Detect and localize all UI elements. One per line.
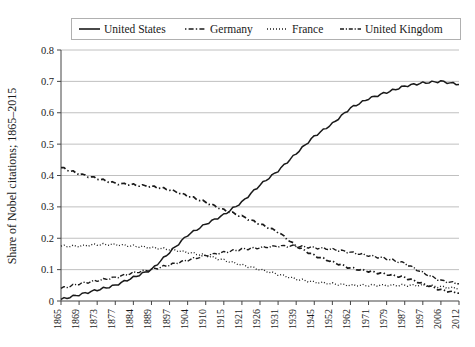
legend-label-2: France [292,23,323,35]
legend: United States Germany France United King… [72,19,461,40]
x-tick-label: 2012 [450,309,461,329]
x-tick-label: 1873 [88,309,99,329]
x-tick-label: 1865 [52,309,63,329]
x-tick-label: 1945 [305,309,316,329]
y-tick-label: 0.1 [41,264,54,275]
x-tick-label: 1979 [378,309,389,329]
x-tick-label: 1889 [142,309,153,329]
x-tick-label: 1997 [414,309,425,329]
y-tick-label: 0.7 [41,76,54,87]
legend-label-3: United Kingdom [365,23,443,36]
x-tick-label: 1939 [287,309,298,329]
x-tick-label: 1931 [269,309,280,329]
x-tick-label: 2006 [432,309,443,329]
chart-canvas: United States Germany France United King… [0,0,475,347]
x-tick-label: 1904 [179,309,190,329]
y-tick-label: 0.4 [41,170,55,181]
legend-label-0: United States [104,23,166,35]
y-tick-label: 0.6 [41,107,54,118]
x-tick-label: 1910 [197,309,208,329]
x-tick-label: 1884 [124,309,135,329]
x-tick-label: 1877 [106,309,117,329]
x-tick-label: 1869 [70,309,81,329]
x-tick-label: 1915 [215,309,226,329]
x-tick-label: 1921 [233,309,244,329]
y-tick-label: 0.5 [41,139,54,150]
nobel-citation-share-chart: United States Germany France United King… [0,0,475,347]
x-tick-label: 1971 [360,309,371,329]
chart-background [0,0,475,347]
y-tick-label: 0.3 [41,201,54,212]
x-tick-label: 1987 [396,309,407,329]
y-axis-title: Share of Nobel citations; 1865–2015 [5,88,19,265]
x-tick-label: 1952 [323,309,334,329]
x-tick-label: 1897 [161,309,172,329]
y-tick-label: 0.2 [41,233,54,244]
x-tick-label: 1962 [341,309,352,329]
legend-label-1: Germany [210,23,253,36]
y-tick-label: 0 [49,296,54,307]
x-tick-label: 1926 [251,309,262,329]
y-tick-label: 0.8 [41,45,54,56]
